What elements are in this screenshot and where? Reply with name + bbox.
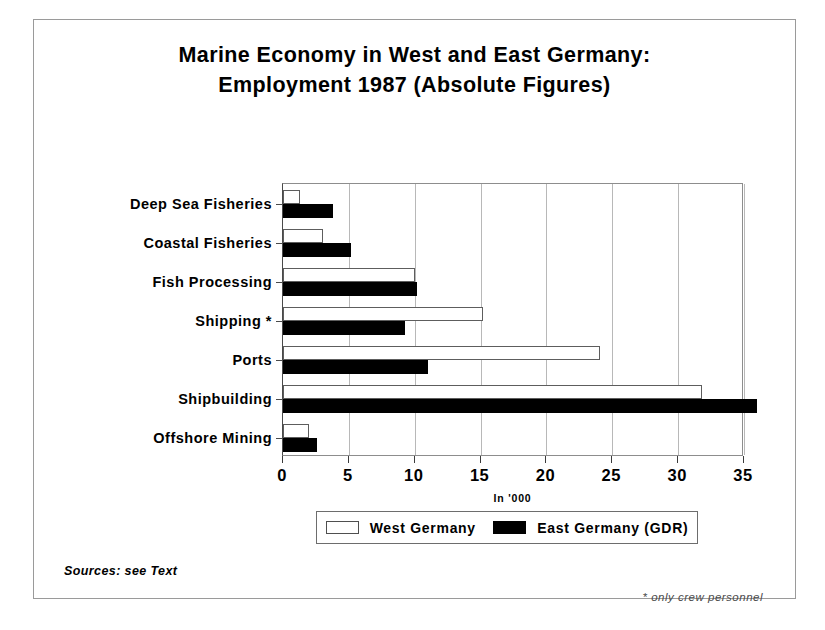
x-tick-label: 35 xyxy=(733,466,752,485)
y-tick-mark xyxy=(276,321,283,322)
bar-east xyxy=(283,438,317,452)
legend-label-west: West Germany xyxy=(370,520,476,536)
category-label: Deep Sea Fisheries xyxy=(130,196,272,212)
bar-west xyxy=(283,385,702,399)
y-tick-mark xyxy=(276,399,283,400)
chart-row: Shipping * xyxy=(283,301,742,340)
chart-row: Coastal Fisheries xyxy=(283,223,742,262)
x-tick-mark xyxy=(743,456,744,463)
x-axis: In '000 05101520253035 xyxy=(282,456,743,516)
title-line-1: Marine Economy in West and East Germany: xyxy=(34,40,795,70)
x-tick-label: 15 xyxy=(470,466,489,485)
footnote-crew-personnel: * only crew personnel xyxy=(643,591,763,603)
legend-entry-west: West Germany xyxy=(326,520,476,536)
x-tick-mark xyxy=(414,456,415,463)
plot-area: Deep Sea FisheriesCoastal FisheriesFish … xyxy=(282,183,743,456)
x-tick-label: 25 xyxy=(602,466,621,485)
x-tick-label: 30 xyxy=(667,466,686,485)
x-tick-mark xyxy=(480,456,481,463)
y-tick-mark xyxy=(276,438,283,439)
legend-swatch-east-icon xyxy=(493,521,526,534)
bar-west xyxy=(283,268,415,282)
category-label: Offshore Mining xyxy=(153,430,272,446)
y-tick-mark xyxy=(276,282,283,283)
chart-row: Ports xyxy=(283,340,742,379)
x-tick-label: 10 xyxy=(404,466,423,485)
x-tick-mark xyxy=(282,456,283,463)
chart-row: Shipbuilding xyxy=(283,379,742,418)
chart-figure: Marine Economy in West and East Germany:… xyxy=(33,19,796,599)
x-tick-label: 20 xyxy=(536,466,555,485)
page-title: Marine Economy in West and East Germany:… xyxy=(34,40,795,100)
category-label: Ports xyxy=(232,352,272,368)
gridline xyxy=(744,184,745,455)
x-tick-mark xyxy=(545,456,546,463)
x-tick-mark xyxy=(611,456,612,463)
bar-west xyxy=(283,229,323,243)
y-tick-mark xyxy=(276,360,283,361)
bar-east xyxy=(283,282,417,296)
category-label: Fish Processing xyxy=(152,274,272,290)
legend-label-east: East Germany (GDR) xyxy=(537,520,688,536)
legend: West Germany East Germany (GDR) xyxy=(316,511,698,544)
bar-west xyxy=(283,346,600,360)
category-label: Shipbuilding xyxy=(178,391,272,407)
bar-west xyxy=(283,190,300,204)
bar-east xyxy=(283,243,351,257)
y-tick-mark xyxy=(276,243,283,244)
source-note: Sources: see Text xyxy=(64,564,177,578)
bar-east xyxy=(283,360,428,374)
legend-entry-east: East Germany (GDR) xyxy=(493,520,688,536)
chart-row: Fish Processing xyxy=(283,262,742,301)
category-label: Coastal Fisheries xyxy=(143,235,272,251)
chart-row: Deep Sea Fisheries xyxy=(283,184,742,223)
x-tick-mark xyxy=(348,456,349,463)
bar-west xyxy=(283,424,309,438)
title-line-2: Employment 1987 (Absolute Figures) xyxy=(34,70,795,100)
bar-west xyxy=(283,307,483,321)
chart-row: Offshore Mining xyxy=(283,418,742,457)
x-tick-mark xyxy=(677,456,678,463)
category-label: Shipping * xyxy=(195,313,272,329)
x-tick-label: 0 xyxy=(277,466,287,485)
bar-east xyxy=(283,399,757,413)
legend-swatch-west-icon xyxy=(326,521,359,534)
bar-east xyxy=(283,204,333,218)
x-tick-label: 5 xyxy=(343,466,353,485)
y-tick-mark xyxy=(276,204,283,205)
x-axis-label: In '000 xyxy=(282,492,743,504)
bar-east xyxy=(283,321,405,335)
